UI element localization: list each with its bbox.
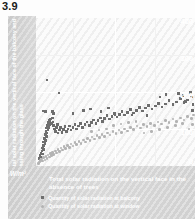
data-point [42, 148, 45, 151]
legend-label-window: Quantity of solar radiation at window [48, 203, 139, 209]
data-point [106, 114, 109, 117]
data-point [46, 132, 49, 135]
data-point [68, 125, 71, 128]
data-point [112, 130, 115, 133]
gridline-x-3 [155, 18, 156, 166]
data-point [126, 111, 129, 114]
data-point [114, 113, 117, 116]
data-point [52, 112, 55, 115]
data-point [132, 128, 135, 131]
data-point [57, 132, 60, 135]
y-tick-400: 400 [161, 18, 193, 26]
data-point [153, 124, 156, 127]
data-point [67, 128, 70, 131]
data-point [100, 110, 103, 113]
data-point [121, 110, 124, 113]
data-point [75, 143, 78, 146]
data-point [103, 117, 106, 120]
data-point [45, 135, 48, 138]
data-point [51, 117, 54, 120]
data-point [90, 121, 93, 124]
data-point [126, 130, 129, 133]
data-point [149, 122, 152, 125]
data-point [65, 130, 68, 133]
data-point [129, 108, 132, 111]
data-point [138, 106, 141, 109]
y-tick-100: 100 [161, 129, 193, 137]
data-point [82, 109, 85, 112]
data-point [112, 124, 115, 127]
data-point [108, 118, 111, 121]
legend-item-balcony: Quantity of solar radiation at balcony [41, 194, 193, 202]
data-point [186, 115, 189, 118]
data-point [72, 126, 75, 129]
data-point [90, 130, 93, 133]
data-point [191, 109, 194, 112]
data-point [41, 153, 44, 156]
data-point [88, 124, 91, 127]
data-point [52, 121, 55, 124]
data-point [77, 125, 80, 128]
legend-label-balcony: Quantity of solar radiation at balcony [48, 195, 140, 201]
data-point [84, 123, 87, 126]
data-point [89, 108, 92, 111]
data-point [92, 119, 95, 122]
data-point [81, 126, 84, 129]
data-point [111, 115, 114, 118]
data-point [44, 110, 47, 113]
data-point [144, 107, 147, 110]
data-point [99, 117, 102, 120]
y-axis-label: Total solar radiation on the vertical fa… [11, 17, 24, 173]
data-point [107, 107, 110, 110]
data-point [151, 108, 154, 111]
data-point [105, 128, 108, 131]
data-point [95, 122, 98, 125]
data-point [43, 145, 46, 148]
data-point [97, 119, 100, 122]
y-tick-300: 300 [161, 55, 193, 63]
data-point [58, 92, 61, 95]
data-point [44, 142, 47, 145]
data-point [135, 120, 138, 123]
data-point [61, 131, 64, 134]
data-point [46, 79, 49, 82]
data-point [118, 113, 121, 116]
data-point [84, 141, 87, 144]
data-point [98, 136, 101, 139]
data-point [175, 120, 178, 123]
data-point [74, 123, 77, 126]
chart-legend: Quantity of solar radiation at balcony Q… [41, 194, 193, 211]
data-point [147, 104, 150, 107]
figure-container: 3.9 Total solar radiation on the vertica… [0, 0, 195, 219]
data-point [172, 103, 175, 106]
data-point [190, 117, 193, 120]
data-point [192, 103, 195, 106]
data-point [150, 130, 153, 133]
x-axis-label: Total solar radiation on the vertical fa… [49, 175, 191, 190]
y-tick-0: 0 [161, 158, 193, 166]
data-point [154, 105, 157, 108]
data-point [181, 122, 184, 125]
x-axis-band [8, 166, 195, 219]
data-point [64, 147, 67, 150]
legend-circle-marker-icon [41, 205, 44, 208]
data-point [86, 121, 89, 124]
data-point [142, 123, 145, 126]
data-point [135, 109, 138, 112]
data-point [47, 129, 50, 132]
data-point [116, 116, 119, 119]
data-point [164, 119, 167, 122]
data-point [157, 102, 160, 105]
data-point [174, 124, 177, 127]
data-point [161, 106, 164, 109]
data-point [184, 100, 187, 103]
data-point [70, 129, 73, 132]
data-point [115, 132, 118, 135]
data-point [101, 120, 104, 123]
data-point [146, 114, 149, 117]
data-point [68, 146, 71, 149]
data-point [75, 128, 78, 131]
data-point [48, 126, 51, 129]
data-point [164, 103, 167, 106]
data-point [123, 114, 126, 117]
